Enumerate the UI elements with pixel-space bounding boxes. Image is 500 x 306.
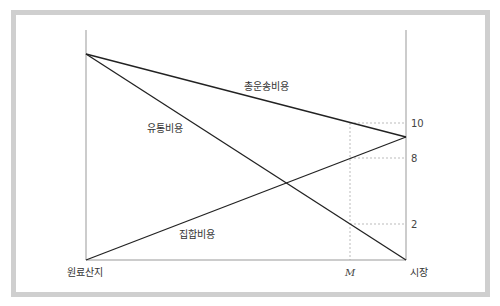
- collection-cost-line: [86, 137, 406, 260]
- tick-label-10: 10: [411, 118, 424, 129]
- total-cost-line: [86, 54, 406, 137]
- origin-label: 원료산지: [67, 267, 103, 278]
- distribution-cost-label: 유통비용: [147, 123, 183, 134]
- optimal-point-label: M: [344, 267, 356, 278]
- total-cost-label: 총운송비용: [244, 81, 289, 92]
- collection-cost-label: 집합비용: [179, 229, 215, 240]
- market-label: 시장: [410, 267, 428, 278]
- tick-label-8: 8: [411, 153, 417, 164]
- tick-label-2: 2: [411, 219, 417, 230]
- transport-cost-diagram: 총운송비용 유통비용 집합비용 원료산지 시장 M 10 8 2: [0, 0, 500, 306]
